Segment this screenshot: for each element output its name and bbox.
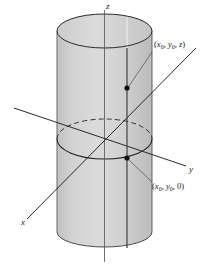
lower-label-close-paren: ) [181, 181, 184, 191]
lower-point-dot [124, 155, 129, 160]
upper-label-close-paren: ) [182, 39, 185, 49]
x-axis-label: x [21, 218, 25, 227]
z-axis-label: z [106, 2, 110, 11]
figure-container: z y x (x0, y0, z) (x0, y0, 0) [0, 0, 211, 268]
upper-point-label: (x0, y0, z) [154, 40, 185, 50]
y-axis-label: y [189, 165, 193, 174]
lower-point-label: (x0, y0, 0) [152, 182, 184, 192]
upper-point-dot [124, 85, 129, 90]
